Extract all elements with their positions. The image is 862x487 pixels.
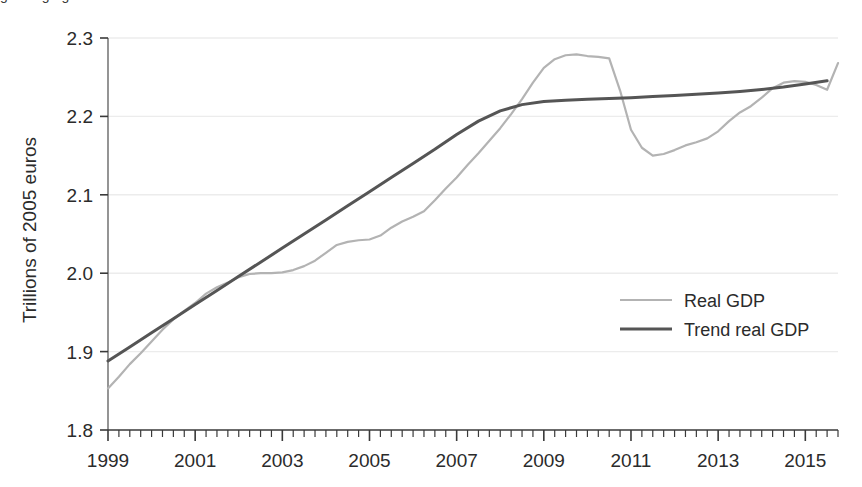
x-axis-tick-label: 2003: [261, 450, 303, 471]
x-axis-tick-label: 1999: [87, 450, 129, 471]
chart-legend: Real GDPTrend real GDP: [620, 291, 809, 340]
x-axis-tick-label: 2011: [611, 450, 652, 471]
x-axis-tick-label: 2009: [523, 450, 565, 471]
figure-container: growing again 19992001200320052007200920…: [0, 0, 862, 487]
y-axis-tick-label: 2.0: [67, 263, 93, 284]
y-axis-tick-label: 1.9: [67, 342, 93, 363]
x-axis-tick-label: 2005: [348, 450, 390, 471]
legend-label-real-gdp: Real GDP: [684, 291, 765, 311]
legend-label-trend-real-gdp: Trend real GDP: [684, 320, 809, 340]
x-axis-tick-labels: 199920012003200520072009201120132015: [87, 450, 827, 471]
x-axis-tick-label: 2013: [697, 450, 739, 471]
x-axis-tick-label: 2001: [174, 450, 216, 471]
x-axis-tick-label: 2015: [784, 450, 826, 471]
y-axis-tick-label: 2.3: [67, 28, 93, 49]
x-axis-ticks: [108, 430, 838, 441]
y-axis-ticks: [100, 38, 108, 430]
y-axis-tick-label: 2.1: [67, 185, 93, 206]
series-line-trend-real-gdp: [108, 81, 827, 361]
y-axis-title-group: Trillions of 2005 euros: [19, 137, 40, 323]
y-axis-tick-labels: 1.81.92.02.12.22.3: [67, 28, 93, 441]
y-axis-title: Trillions of 2005 euros: [19, 137, 40, 323]
y-axis-tick-label: 2.2: [67, 106, 93, 127]
x-axis-tick-label: 2007: [436, 450, 478, 471]
chart-spines: [108, 38, 838, 430]
gdp-trend-line-chart: 199920012003200520072009201120132015 1.8…: [0, 0, 862, 487]
y-axis-tick-label: 1.8: [67, 420, 93, 441]
